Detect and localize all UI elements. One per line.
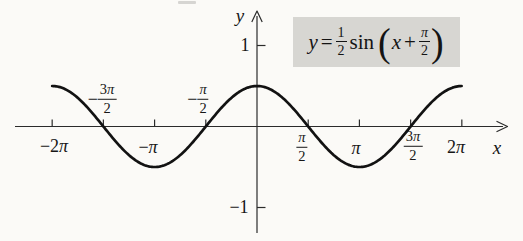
pi-glyph: π (149, 138, 158, 156)
figure-canvas: y 1 −1 x −2π −3π2 −π −π2 π2 π 3π2 2π y =… (0, 0, 523, 241)
pi-glyph: π (413, 128, 420, 144)
denominator: 2 (103, 100, 110, 117)
x-tick-label-neg-3pi-over-2: −3π2 (88, 82, 117, 116)
x-tick-label-pi: π (351, 139, 360, 157)
coefficient-fraction: 12 (336, 26, 347, 59)
x-tick-label-neg-pi-over-2: −π2 (187, 82, 208, 116)
equals-sign: = (321, 30, 333, 55)
pi-glyph: π (199, 81, 206, 97)
x-tick-label-neg-pi: −π (138, 138, 157, 156)
denominator: 2 (298, 148, 305, 165)
fraction: π2 (296, 130, 307, 164)
phase-fraction: π2 (419, 26, 430, 59)
denominator: 2 (409, 147, 416, 164)
equation-lhs: y (308, 30, 317, 55)
pi-glyph: π (456, 138, 465, 156)
fraction: 3π2 (404, 129, 423, 163)
x-tick-label-pi-over-2: π2 (296, 130, 307, 164)
y-tick-label-neg-1: −1 (229, 198, 248, 216)
y-tick-label-1: 1 (241, 36, 250, 54)
pi-glyph: π (298, 129, 305, 145)
argument-variable: x (392, 30, 401, 55)
x-tick-label-3pi-over-2: 3π2 (404, 129, 423, 163)
y-axis-label: y (236, 6, 244, 25)
minus-sign: − (187, 90, 197, 108)
x-axis-label: x (493, 138, 501, 157)
tick-text: −2 (40, 137, 59, 155)
plus-sign: + (404, 30, 416, 55)
denominator: 2 (421, 42, 428, 58)
fraction: 3π2 (98, 82, 117, 116)
denominator: 2 (338, 42, 345, 58)
equation-box: y = 12 sin ( x + π2 ) (293, 17, 460, 67)
pi-glyph: π (107, 81, 114, 97)
pi-glyph: π (59, 137, 68, 155)
tick-text: 2 (447, 138, 456, 156)
pi-glyph: π (419, 26, 430, 43)
x-tick-label-neg-2pi: −2π (40, 137, 68, 155)
numerator: 1 (336, 26, 347, 43)
x-tick-label-2pi: 2π (447, 138, 465, 156)
sin-function-name: sin (350, 30, 375, 55)
denominator: 2 (199, 100, 206, 117)
tick-text: − (138, 138, 148, 156)
minus-sign: − (88, 90, 98, 108)
fraction: π2 (197, 82, 208, 116)
pi-glyph: π (351, 139, 360, 157)
